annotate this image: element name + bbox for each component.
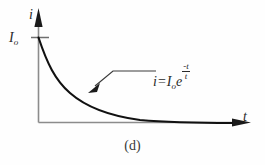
initial-value-subscript: o: [14, 37, 19, 47]
equation-exponent: -t t: [182, 62, 190, 81]
equation-operator: =: [158, 74, 166, 89]
exponential-decay-figure: i t Io i=Ioe -t t (d): [0, 0, 265, 165]
y-axis-label: i: [29, 8, 33, 22]
equation-annotation: i=Ioe -t t: [153, 62, 190, 91]
x-axis-arrowhead: [232, 118, 251, 126]
exponent-denominator: t: [182, 71, 190, 81]
figure-caption: (d): [0, 139, 265, 153]
annotation-leader-line: [95, 71, 156, 86]
y-axis-arrowhead: [34, 8, 42, 27]
annotation-arrowhead: [88, 83, 100, 93]
exponent-numerator: -t: [182, 62, 190, 71]
decay-curve: [39, 38, 233, 124]
x-axis-label: t: [243, 110, 247, 124]
equation-lhs: i: [153, 74, 157, 89]
initial-value-label: Io: [9, 31, 18, 47]
